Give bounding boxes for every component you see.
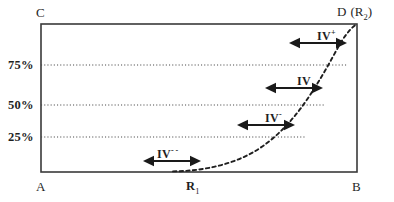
- corner-label-b-text: B: [352, 179, 361, 194]
- plot-frame: [41, 24, 357, 172]
- region-label-iv-neutral-base: IV: [297, 74, 311, 88]
- corner-label-c: C: [36, 6, 45, 19]
- x-tick-label-r1: R1: [186, 180, 200, 195]
- region-label-iv-minus: IV-: [265, 111, 282, 124]
- region-label-iv-plus-plus-sup: +: [331, 28, 336, 37]
- corner-label-b: B: [352, 180, 361, 193]
- y-tick-label-50: 50%: [8, 99, 34, 112]
- corner-label-a: A: [36, 180, 45, 193]
- region-label-iv-minus-minus: IV- -: [157, 147, 178, 160]
- y-tick-label-25: 25%: [8, 131, 34, 144]
- x-tick-label-r1-base: R: [186, 179, 195, 193]
- region-label-iv-minus-base: IV: [265, 111, 279, 125]
- region-label-iv-plus-plus: IV+: [317, 29, 336, 42]
- region-label-iv-neutral: IV: [297, 74, 311, 87]
- region-label-iv-minus-sup: -: [279, 110, 282, 119]
- region-label-iv-plus-plus-base: IV: [317, 29, 331, 43]
- corner-label-d: D(R2): [337, 5, 372, 21]
- x-tick-label-r1-subscript: 1: [195, 186, 199, 196]
- corner-label-a-text: A: [36, 179, 45, 194]
- corner-label-d-paren-open: (R: [350, 4, 363, 19]
- corner-label-c-text: C: [36, 5, 45, 20]
- y-tick-label-75: 75%: [8, 59, 34, 72]
- region-label-iv-minus-minus-base: IV: [157, 147, 171, 161]
- region-label-iv-minus-minus-sup: - -: [171, 146, 178, 155]
- boundary-curve: [173, 24, 357, 171]
- corner-label-d-paren-close: ): [368, 4, 372, 19]
- region-diagram-figure: C D(R2) A B R1 75% 50% 25% IV+ IV IV- IV…: [0, 0, 394, 202]
- corner-label-d-text: D: [337, 4, 346, 19]
